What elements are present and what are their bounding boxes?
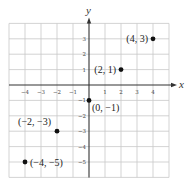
axes <box>9 17 177 177</box>
data-points: (4, 3)(2, 1)(0, −1)(−2, −3)(−4, −5) <box>18 33 155 168</box>
data-point <box>87 98 92 103</box>
y-tick-label: −5 <box>78 159 87 165</box>
y-tick-label: 1 <box>83 67 87 73</box>
y-tick-label: −4 <box>78 144 87 150</box>
coordinate-plane: −4−3−2−11234−5−4−3−2−1123 (4, 3)(2, 1)(0… <box>0 0 191 191</box>
data-point <box>23 160 28 165</box>
y-axis-arrow-icon <box>87 17 91 23</box>
point-label: (−2, −3) <box>18 116 51 128</box>
x-tick-label: 3 <box>135 89 139 95</box>
data-point <box>151 36 156 41</box>
x-tick-label: −3 <box>37 89 46 95</box>
point-label: (4, 3) <box>126 33 148 45</box>
y-tick-label: 3 <box>83 36 87 42</box>
x-axis-arrow-icon <box>171 83 177 87</box>
point-label: (0, −1) <box>92 102 119 114</box>
x-tick-label: −1 <box>69 89 77 95</box>
point-label: (−4, −5) <box>30 157 63 169</box>
data-point <box>55 129 60 134</box>
y-tick-label: −1 <box>78 97 86 103</box>
y-tick-label: 2 <box>83 51 87 57</box>
x-tick-label: 4 <box>151 89 155 95</box>
x-tick-label: −4 <box>21 89 30 95</box>
y-tick-label: −2 <box>78 113 86 119</box>
data-point <box>119 67 124 72</box>
y-axis-label: y <box>85 4 91 16</box>
point-label: (2, 1) <box>94 64 116 76</box>
y-tick-label: −3 <box>78 128 87 134</box>
x-tick-label: 1 <box>103 89 107 95</box>
x-tick-label: −2 <box>53 89 61 95</box>
x-axis-label: x <box>178 78 184 90</box>
x-tick-label: 2 <box>119 89 123 95</box>
